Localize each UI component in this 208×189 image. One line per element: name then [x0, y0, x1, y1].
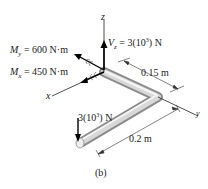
vz-arrow — [101, 40, 108, 70]
figure-caption: (b) — [95, 168, 107, 178]
my-label: My = 600 N·m — [10, 45, 68, 58]
dimension-label-0-15: 0.15 m — [141, 68, 169, 78]
mx-label: Mx = 450 N·m — [10, 67, 68, 80]
y-axis-label: y — [196, 110, 200, 118]
dimension-label-0-2: 0.2 m — [129, 134, 152, 144]
x-axis-label: x — [46, 91, 50, 101]
mx-moment-arrow — [80, 72, 104, 83]
end-load-label: 3(103) N — [78, 112, 112, 123]
pipe-diagram — [0, 0, 208, 189]
z-axis-label: z — [101, 12, 105, 22]
vz-label: Vz = 3(103) N — [108, 37, 162, 51]
my-moment-arrow — [74, 54, 104, 70]
axes — [52, 20, 198, 116]
